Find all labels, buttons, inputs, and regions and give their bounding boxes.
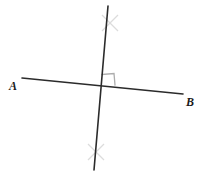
point-label-b: B <box>186 96 194 108</box>
figure-canvas <box>0 0 199 175</box>
vertical-transversal-line <box>94 6 108 170</box>
right-angle-icon <box>102 74 115 86</box>
line-segment-ab <box>22 78 183 94</box>
point-label-a: A <box>9 80 17 92</box>
tick-mark-top <box>102 15 118 31</box>
geometry-figure: A B <box>0 0 199 175</box>
